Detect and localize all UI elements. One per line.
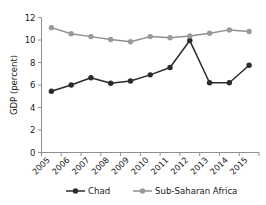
data-point [88, 34, 93, 39]
x-axis-tick-labels: 2005200620072008200920102011201220132014… [30, 155, 250, 177]
x-tick-label: 2009 [109, 155, 131, 177]
y-axis-tick-marks [38, 18, 42, 153]
data-point [167, 35, 172, 40]
series-layer [49, 25, 252, 94]
data-point [49, 25, 54, 30]
data-point [246, 29, 251, 34]
data-point [128, 39, 133, 44]
series-line [51, 41, 249, 92]
legend-label: Sub-Saharan Africa [155, 186, 237, 196]
data-point [108, 81, 113, 86]
legend-item-sub-saharan-africa[interactable]: Sub-Saharan Africa [133, 186, 237, 196]
legend-swatch-marker [140, 188, 145, 193]
data-point [207, 31, 212, 36]
data-point [108, 37, 113, 42]
data-point [128, 78, 133, 83]
x-tick-label: 2011 [149, 155, 171, 177]
series-chad [49, 38, 252, 94]
y-tick-label: 2 [30, 125, 35, 135]
y-axis-tick-labels: 024681012 [25, 13, 36, 158]
data-point [227, 80, 232, 85]
y-tick-label: 4 [30, 103, 35, 113]
x-tick-label: 2006 [50, 155, 72, 177]
y-tick-label: 10 [25, 35, 36, 45]
series-sub-saharan-africa [49, 25, 252, 44]
chart-canvas: GDP (percent) 024681012 2005200620072008… [0, 0, 266, 205]
legend-item-chad[interactable]: Chad [66, 186, 110, 196]
data-point [187, 33, 192, 38]
x-tick-label: 2010 [129, 155, 151, 177]
x-tick-label: 2012 [168, 155, 190, 177]
x-axis-tick-marks [42, 153, 260, 157]
x-tick-label: 2014 [208, 155, 230, 177]
x-tick-label: 2008 [89, 155, 111, 177]
x-tick-label: 2013 [188, 155, 210, 177]
data-point [227, 27, 232, 32]
data-point [68, 82, 73, 87]
data-point [88, 75, 93, 80]
data-point [68, 31, 73, 36]
data-point [148, 34, 153, 39]
legend-label: Chad [88, 186, 110, 196]
chart-legend: ChadSub-Saharan Africa [66, 186, 237, 196]
x-tick-label: 2007 [70, 155, 92, 177]
x-tick-label: 2005 [30, 155, 52, 177]
y-tick-label: 8 [30, 58, 35, 68]
data-point [246, 63, 251, 68]
legend-swatch-marker [73, 188, 78, 193]
y-tick-label: 6 [30, 80, 35, 90]
data-point [49, 88, 54, 93]
x-tick-label: 2015 [228, 155, 250, 177]
y-axis-label: GDP (percent) [9, 55, 19, 115]
gdp-line-chart: GDP (percent) 024681012 2005200620072008… [0, 0, 266, 205]
data-point [148, 72, 153, 77]
data-point [207, 80, 212, 85]
data-point [167, 65, 172, 70]
y-tick-label: 0 [30, 148, 35, 158]
y-tick-label: 12 [25, 13, 36, 23]
